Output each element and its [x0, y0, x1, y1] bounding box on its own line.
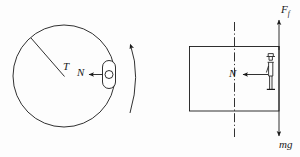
tension-radius-line	[31, 38, 65, 77]
normal-force-label-left: N	[77, 67, 84, 78]
rider-head-circle	[105, 71, 113, 79]
normal-force-label-right: N	[229, 68, 236, 79]
person-torso	[269, 62, 273, 76]
stick-figure-person	[266, 54, 275, 90]
person-hat-crown	[268, 54, 273, 57]
rotation-direction-arrow	[130, 45, 136, 113]
tension-label: T	[63, 61, 69, 72]
figure-canvas	[0, 0, 300, 157]
physics-figure: T N N Ff mg	[0, 0, 300, 157]
friction-force-symbol: F	[281, 3, 288, 15]
rider-capsule-group	[103, 61, 116, 89]
friction-force-subscript: f	[288, 9, 290, 18]
weight-label: mg	[279, 139, 292, 150]
person-head	[269, 57, 272, 61]
friction-force-label: Ff	[281, 4, 290, 18]
